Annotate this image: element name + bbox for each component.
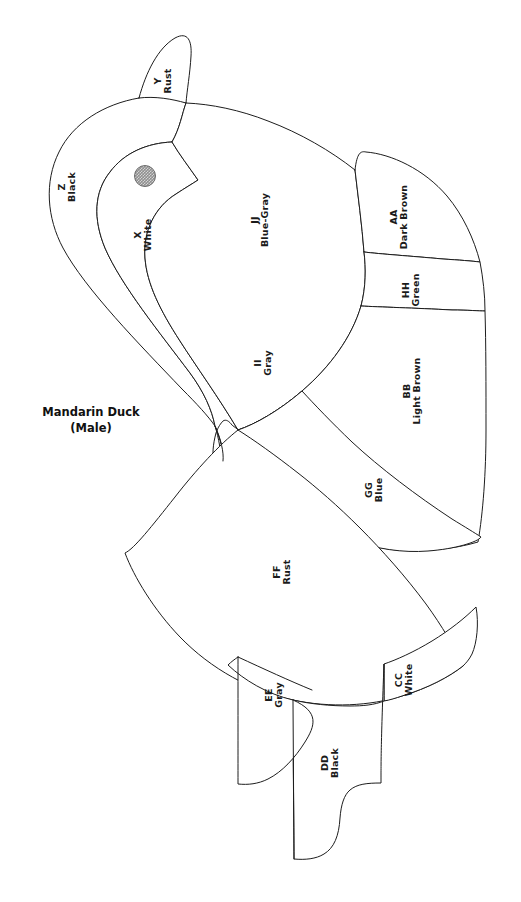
region-color-FF: Rust bbox=[281, 559, 291, 584]
region-color-DD: Black bbox=[330, 748, 340, 778]
region-color-Z: Black bbox=[67, 172, 77, 202]
page-title: Mandarin Duck (Male) bbox=[16, 405, 166, 436]
region-label-X[interactable]: X White bbox=[127, 225, 159, 247]
region-color-JJ: Blue-Gray bbox=[260, 193, 270, 247]
region-code-FF: FF bbox=[271, 559, 281, 584]
region-label-II[interactable]: II Gray bbox=[250, 353, 276, 375]
region-code-HH: HH bbox=[400, 273, 410, 306]
region-label-DD[interactable]: DD Black bbox=[315, 753, 345, 775]
region-code-Y: Y bbox=[152, 68, 162, 93]
region-label-AA[interactable]: AA Dark Brown bbox=[367, 207, 432, 229]
page-title-line-1: Mandarin Duck bbox=[16, 405, 166, 421]
region-color-II: Gray bbox=[263, 350, 273, 376]
duck-outline-svg bbox=[0, 0, 521, 902]
region-color-AA: Dark Brown bbox=[399, 185, 409, 250]
region-color-HH: Green bbox=[410, 273, 420, 306]
region-color-GG: Blue bbox=[374, 478, 384, 503]
region-color-CC: White bbox=[404, 664, 414, 696]
region-code-BB: BB bbox=[402, 358, 412, 425]
region-code-GG: GG bbox=[364, 478, 374, 503]
region-label-GG[interactable]: GG Blue bbox=[362, 480, 387, 502]
region-label-CC[interactable]: CC White bbox=[388, 670, 420, 692]
region-label-JJ[interactable]: JJ Blue-Gray bbox=[233, 210, 287, 232]
region-label-Z[interactable]: Z Black bbox=[52, 177, 82, 199]
region-color-EE: Gray bbox=[274, 682, 284, 708]
duck-pattern-diagram: X White Y Rust Z Black AA Dark Brown BB … bbox=[0, 0, 521, 902]
region-color-X: White bbox=[143, 219, 153, 251]
region-label-EE[interactable]: EE Gray bbox=[261, 685, 287, 707]
region-code-AA: AA bbox=[389, 185, 399, 250]
region-label-HH[interactable]: HH Green bbox=[394, 280, 427, 302]
page-title-line-2: (Male) bbox=[16, 421, 166, 437]
eye-icon bbox=[134, 165, 156, 187]
region-label-BB[interactable]: BB Light Brown bbox=[379, 381, 446, 403]
region-label-Y[interactable]: Y Rust bbox=[150, 71, 175, 93]
region-label-FF[interactable]: FF Rust bbox=[269, 562, 294, 584]
region-color-BB: Light Brown bbox=[412, 358, 422, 425]
region-color-Y: Rust bbox=[162, 68, 172, 93]
